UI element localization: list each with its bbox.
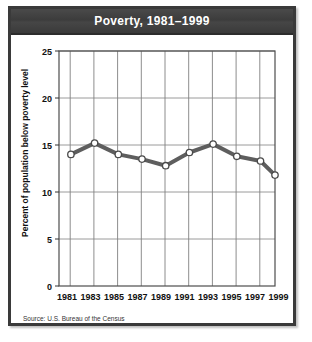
plot-region: Percent of population below poverty leve… bbox=[11, 37, 293, 325]
y-tick-label: 15 bbox=[42, 141, 52, 151]
x-tick-label: 1999 bbox=[268, 292, 288, 302]
data-point bbox=[163, 163, 169, 169]
y-tick-label: 20 bbox=[42, 94, 52, 104]
data-point bbox=[234, 153, 240, 159]
page-title: Poverty, 1981–1999 bbox=[94, 14, 209, 28]
x-tick-label: 1989 bbox=[151, 292, 171, 302]
data-point bbox=[186, 149, 192, 155]
y-tick-label: 0 bbox=[47, 282, 52, 292]
x-tick-label: 1981 bbox=[57, 292, 77, 302]
x-tick-label: 1987 bbox=[127, 292, 147, 302]
x-tick-label: 1997 bbox=[245, 292, 265, 302]
y-tick-label: 25 bbox=[42, 47, 52, 57]
y-tick-label: 5 bbox=[47, 235, 52, 245]
y-axis-title: Percent of population below poverty leve… bbox=[20, 69, 30, 237]
x-tick-label: 1991 bbox=[174, 292, 194, 302]
data-point bbox=[272, 172, 278, 178]
data-point bbox=[68, 151, 74, 157]
data-point bbox=[210, 141, 216, 147]
line-chart: Percent of population below poverty leve… bbox=[11, 37, 293, 325]
chart-figure: Poverty, 1981–1999 Percent of population… bbox=[8, 6, 296, 326]
x-tick-label: 1983 bbox=[80, 292, 100, 302]
x-tick-label: 1995 bbox=[221, 292, 241, 302]
data-point bbox=[115, 151, 121, 157]
data-point bbox=[91, 140, 97, 146]
y-tick-label: 10 bbox=[42, 188, 52, 198]
data-point bbox=[139, 156, 145, 162]
chart-title-bar: Poverty, 1981–1999 bbox=[11, 9, 293, 35]
x-tick-label: 1993 bbox=[198, 292, 218, 302]
data-point bbox=[257, 158, 263, 164]
source-note: Source: U.S. Bureau of the Census bbox=[23, 315, 125, 322]
x-tick-label: 1985 bbox=[104, 292, 124, 302]
